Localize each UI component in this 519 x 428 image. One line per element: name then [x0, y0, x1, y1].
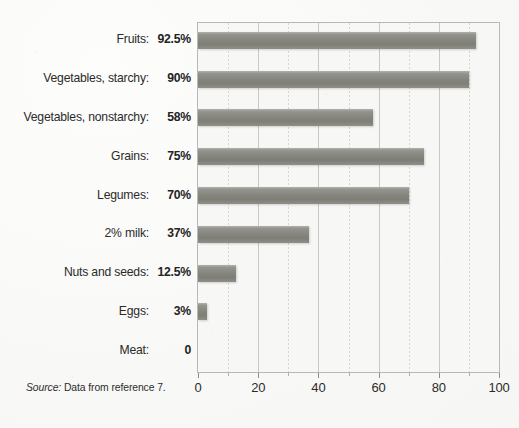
x-tick-label: 20 [251, 380, 265, 395]
source-note-text: Data from reference 7. [61, 382, 166, 393]
tick-minor-10 [228, 373, 229, 376]
category-name: Vegetables, nonstarchy: [24, 110, 150, 124]
category-label-row: Vegetables, starchy:90% [8, 69, 191, 87]
category-name: Eggs: [119, 304, 149, 318]
bar [198, 32, 476, 49]
bar [198, 265, 236, 282]
category-value: 75% [149, 149, 191, 163]
category-label-row: Fruits:92.5% [8, 30, 191, 48]
x-tick-label: 0 [194, 380, 201, 395]
category-label-column: Fruits:92.5%Vegetables, starchy:90%Veget… [8, 22, 191, 372]
category-name: Grains: [111, 149, 149, 163]
category-name: Nuts and seeds: [64, 265, 149, 279]
plot-area [197, 22, 500, 373]
category-value: 12.5% [149, 265, 191, 279]
x-tick-label: 100 [488, 380, 509, 395]
bar [198, 226, 309, 243]
bar [198, 148, 424, 165]
tick-major-80 [439, 373, 440, 378]
category-label-row: Vegetables, nonstarchy:58% [8, 108, 191, 126]
category-label-row: Grains:75% [8, 147, 191, 165]
category-value: 3% [149, 304, 191, 318]
x-tick-label: 80 [432, 380, 446, 395]
gridline-minor-90 [469, 23, 470, 372]
bar [198, 71, 469, 88]
tick-major-20 [258, 373, 259, 378]
category-value: 37% [149, 226, 191, 240]
tick-major-60 [379, 373, 380, 378]
bar [198, 109, 373, 126]
category-label-row: Eggs:3% [8, 302, 191, 320]
category-value: 58% [149, 110, 191, 124]
category-value: 0 [149, 343, 191, 357]
x-tick-label: 60 [372, 380, 386, 395]
plot-inner [198, 23, 499, 372]
category-name: Vegetables, starchy: [43, 71, 149, 85]
tick-minor-30 [288, 373, 289, 376]
x-axis-ticks [197, 373, 500, 378]
tick-major-100 [499, 373, 500, 378]
category-label-row: Nuts and seeds:12.5% [8, 263, 191, 281]
category-value: 92.5% [149, 32, 191, 46]
x-tick-label: 40 [311, 380, 325, 395]
category-label-row: Legumes:70% [8, 186, 191, 204]
category-label-row: Meat:0 [8, 341, 191, 359]
tick-minor-50 [349, 373, 350, 376]
category-value: 70% [149, 188, 191, 202]
category-name: Fruits: [117, 32, 149, 46]
category-name: 2% milk: [105, 226, 149, 240]
source-note-lead: Source: [26, 382, 61, 393]
category-name: Legumes: [97, 188, 149, 202]
x-axis-tick-labels: 020406080100 [197, 380, 500, 400]
source-note: Source: Data from reference 7. [26, 382, 166, 393]
tick-minor-90 [469, 373, 470, 376]
tick-major-40 [318, 373, 319, 378]
tick-minor-70 [409, 373, 410, 376]
category-label-row: 2% milk:37% [8, 224, 191, 242]
bar [198, 303, 207, 320]
category-name: Meat: [120, 343, 149, 357]
tick-major-0 [198, 373, 199, 378]
bar [198, 187, 409, 204]
horizontal-bar-chart: Fruits:92.5%Vegetables, starchy:90%Veget… [0, 0, 519, 428]
category-value: 90% [149, 71, 191, 85]
